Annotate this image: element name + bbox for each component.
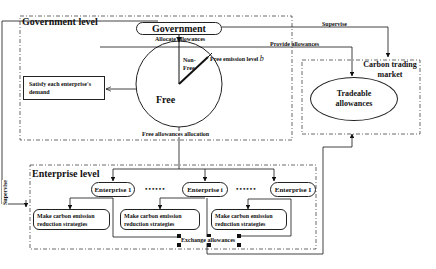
exchange-allowances-label: Exchange allowances xyxy=(181,237,235,243)
supervise-left-label: Supervise xyxy=(2,180,8,205)
free-emission-text: Free emission level xyxy=(210,56,258,62)
government-node-label: Government xyxy=(152,23,206,34)
free-emission-symbol: b xyxy=(260,54,264,63)
ei-to-strategy xyxy=(160,198,205,209)
strategy-3-line2: reduction strategies xyxy=(215,220,283,228)
provide-allowances-label: Provide allowances xyxy=(270,41,319,47)
enterprise-i-node[interactable]: Enterprise i xyxy=(182,182,228,197)
tradeable-line2: allowances xyxy=(336,100,373,108)
tradeable-line1: Tradeable xyxy=(337,90,372,98)
free-allowances-allocation-label: Free allowances allocation xyxy=(142,131,209,137)
enterprise-i-label: Enterprise i xyxy=(187,186,223,194)
strategy-box-2[interactable]: Make carbon emission reduction strategie… xyxy=(120,209,200,230)
pie-non-free-label: Non- Free xyxy=(183,57,196,73)
carbon-market-title: Carbon trading market xyxy=(360,61,420,79)
strategy-1-line2: reduction strategies xyxy=(37,220,106,228)
tradeable-allowances-node[interactable]: Tradeable allowances xyxy=(310,77,398,121)
e1-to-strategy xyxy=(70,198,113,209)
strategy-box-3[interactable]: Make carbon emission reduction strategie… xyxy=(211,209,287,230)
enterprise-I-node[interactable]: Enterprise I xyxy=(270,182,316,197)
enterprise-ellipsis-2: •••••• xyxy=(236,186,257,193)
pie-free-label: Free xyxy=(156,95,175,105)
enterprise-I-label: Enterprise I xyxy=(275,186,311,194)
enterprise-ellipsis-1: •••••• xyxy=(145,186,166,193)
strategy-box-1[interactable]: Make carbon emission reduction strategie… xyxy=(33,209,110,230)
enterprise-1-label: Enterprise 1 xyxy=(94,186,131,194)
strategy-3-line1: Make carbon emission xyxy=(215,212,283,220)
enterprise-level-title: Enterprise level xyxy=(32,169,99,179)
satisfy-demand-text: Satisfy each enterprise's demand xyxy=(29,80,99,96)
eI-to-strategy xyxy=(248,199,291,209)
satisfy-demand-box[interactable]: Satisfy each enterprise's demand xyxy=(23,76,105,100)
strategy-2-line1: Make carbon emission xyxy=(124,212,196,220)
government-node[interactable]: Government xyxy=(136,22,222,35)
carbon-market-title-line1: Carbon trading xyxy=(360,61,420,69)
free-emission-level-label: Free emission level b xyxy=(210,55,264,63)
supervise-top-label: Supervise xyxy=(322,21,347,27)
government-level-title: Government level xyxy=(22,17,98,27)
strategy-2-line2: reduction strategies xyxy=(124,220,196,228)
enterprise-1-node[interactable]: Enterprise 1 xyxy=(91,182,135,197)
allocate-allowances-label: Allocate allowances xyxy=(155,36,205,42)
strategy-1-line1: Make carbon emission xyxy=(37,212,106,220)
